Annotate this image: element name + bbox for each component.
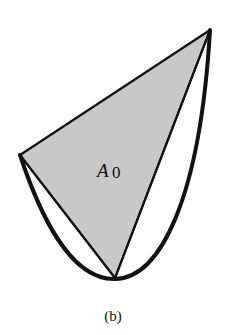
figure-caption: (b): [104, 308, 122, 325]
region-subscript: 0: [112, 163, 121, 182]
parabolic-segment-diagram: A 0 (b): [0, 0, 227, 335]
region-label: A: [95, 160, 109, 181]
triangle-a0: [20, 30, 210, 278]
